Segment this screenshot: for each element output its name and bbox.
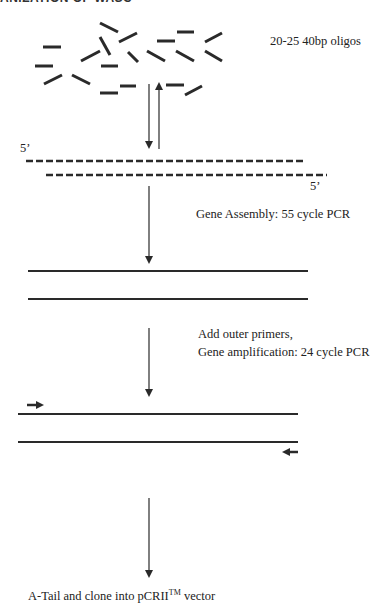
oligo-fragment: [205, 51, 222, 61]
gene-synthesis-diagram: [0, 0, 392, 611]
cloning-label-prefix: A-Tail and clone into pCRII: [28, 589, 169, 603]
oligo-fragments: [35, 23, 222, 95]
oligo-fragment: [72, 75, 90, 84]
amplification-label-line1: Add outer primers,: [198, 327, 293, 342]
oligos-label: 20-25 40bp oligos: [270, 34, 361, 49]
oligo-fragment: [44, 75, 62, 84]
oligo-fragment: [205, 33, 222, 42]
oligo-fragment: [128, 52, 138, 62]
cloning-label-suffix: vector: [181, 589, 215, 603]
five-prime-top-label: 5’: [20, 141, 30, 156]
oligo-fragment: [100, 23, 118, 32]
trademark-superscript: TM: [169, 588, 181, 597]
cloning-label: A-Tail and clone into pCRIITM vector: [28, 585, 215, 604]
five-prime-bottom-label: 5’: [310, 179, 320, 194]
oligo-fragment: [119, 33, 137, 42]
oligo-fragment: [147, 51, 165, 61]
assembly-label: Gene Assembly: 55 cycle PCR: [196, 207, 350, 222]
oligo-fragment: [185, 86, 202, 95]
oligo-fragment: [176, 51, 194, 61]
amplification-label-line2: Gene amplification: 24 cycle PCR: [198, 345, 369, 360]
oligo-fragment: [81, 51, 100, 61]
oligo-fragment: [100, 37, 110, 55]
